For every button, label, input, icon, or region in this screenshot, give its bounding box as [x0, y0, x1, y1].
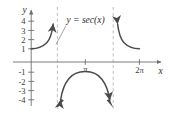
secant-branch-right: [118, 24, 140, 49]
secant-branch-middle: [61, 72, 110, 101]
curve-label-text: y = sec(x): [66, 15, 105, 26]
y-tick-label-neg4: -4: [19, 95, 27, 105]
x-axis-label: x: [157, 66, 163, 76]
curve-arrowheads: [57, 99, 113, 108]
x-tick-label-pi: π: [83, 64, 88, 74]
y-tick-labels: 4 3 2 1 -1 -2 -3 -4: [19, 16, 27, 105]
y-axis-label: y: [21, 5, 27, 15]
plot-canvas: 4 3 2 1 -1 -2 -3 -4 π 2π y x: [0, 0, 173, 113]
curve-label-leader: [56, 26, 66, 45]
x-tick-label-2pi: 2π: [135, 65, 144, 75]
secant-branch-left: [31, 24, 53, 49]
sec-function-graph-figure: 4 3 2 1 -1 -2 -3 -4 π 2π y x: [0, 0, 173, 113]
arrowhead-down-left: [57, 99, 64, 108]
y-tick-label-1: 1: [21, 44, 25, 54]
curve-annotation: y = sec(x): [56, 15, 105, 45]
arrowhead-down-right: [107, 99, 114, 108]
x-tick-labels: π 2π: [83, 64, 144, 75]
